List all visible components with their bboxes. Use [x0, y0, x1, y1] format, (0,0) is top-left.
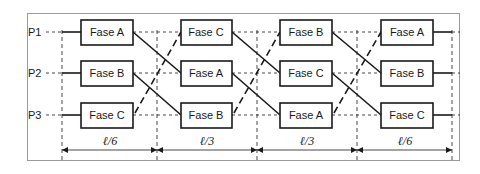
- vertical-guides: [62, 30, 452, 162]
- segment-label: ℓ/3: [300, 134, 314, 148]
- phase-label: Fase C: [188, 26, 224, 38]
- segment-label: ℓ/3: [200, 134, 214, 148]
- transposition-diagram: P1 P2 P3 Fase A Fase B Fase C Fase C Fas…: [0, 0, 480, 174]
- row-label-p3: P3: [28, 109, 41, 121]
- transposition-lines-dashed: [135, 32, 381, 113]
- row-label-p1: P1: [28, 26, 41, 38]
- segment-label: ℓ/6: [103, 134, 117, 148]
- phase-label: Fase C: [288, 67, 324, 79]
- phase-label: Fase C: [389, 109, 425, 121]
- phase-label: Fase A: [90, 26, 125, 38]
- phase-label: Fase B: [90, 67, 125, 79]
- phase-label: Fase B: [390, 67, 425, 79]
- phase-label: Fase A: [289, 109, 324, 121]
- segment-label: ℓ/6: [398, 134, 412, 148]
- phase-label: Fase B: [289, 26, 324, 38]
- phase-label: Fase B: [189, 109, 224, 121]
- row-label-p2: P2: [28, 67, 41, 79]
- phase-label: Fase A: [189, 67, 224, 79]
- phase-label: Fase C: [89, 109, 125, 121]
- phase-label: Fase A: [390, 26, 425, 38]
